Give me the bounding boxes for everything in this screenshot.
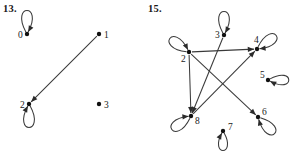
fig15-node-2[interactable] [187, 50, 191, 54]
fig15-arrowhead-loop-2 [183, 43, 188, 50]
fig13-node-label-3: 3 [104, 100, 109, 110]
fig15-node-6[interactable] [256, 115, 260, 119]
fig15-node-label-6: 6 [262, 107, 267, 117]
fig15-self-loop-4 [258, 34, 277, 49]
fig15-node-label-3: 3 [215, 30, 220, 40]
self-loops-layer [22, 11, 289, 151]
fig15-edge-3-to-8 [192, 38, 223, 113]
fig13-edge-1-to-2 [31, 36, 97, 102]
fig15-self-loop-6 [259, 118, 276, 135]
fig13-node-2[interactable] [27, 102, 31, 106]
fig15-node-5[interactable] [266, 78, 270, 82]
fig13-node-0[interactable] [25, 32, 29, 36]
fig15-edge-2-to-4 [192, 49, 254, 52]
fig15-edge-2-to-8 [189, 55, 191, 113]
fig15-node-3[interactable] [222, 33, 226, 37]
fig15-node-label-5: 5 [260, 70, 265, 80]
fig13-node-label-2: 2 [20, 100, 25, 110]
fig13-node-3[interactable] [97, 102, 101, 106]
fig15-node-label-8: 8 [195, 116, 200, 126]
fig15-arrowhead-loop-6 [258, 119, 263, 126]
fig15-node-label-2: 2 [181, 54, 186, 64]
fig15-arrowhead-loop-8 [182, 114, 188, 119]
fig15-node-7[interactable] [221, 129, 225, 133]
fig15-edge-8-to-4 [193, 51, 255, 114]
fig15-node-4[interactable] [255, 47, 259, 51]
directed-graph-canvas: 01232345678 [0, 0, 302, 156]
nodes-layer: 01232345678 [18, 30, 270, 133]
fig15-self-loop-2 [169, 37, 188, 52]
fig13-node-label-1: 1 [104, 30, 109, 40]
fig15-node-label-7: 7 [228, 122, 233, 132]
fig15-arrowhead-2-4 [248, 47, 254, 52]
edges-layer [31, 36, 256, 115]
figure-page: 13. 15. 01232345678 [0, 0, 302, 156]
fig15-self-loop-8 [171, 116, 190, 131]
fig15-arrowhead-loop-4 [259, 45, 265, 50]
fig13-node-1[interactable] [97, 32, 101, 36]
fig13-node-label-0: 0 [18, 30, 23, 40]
fig15-node-8[interactable] [189, 114, 193, 118]
fig15-node-label-4: 4 [254, 35, 259, 45]
